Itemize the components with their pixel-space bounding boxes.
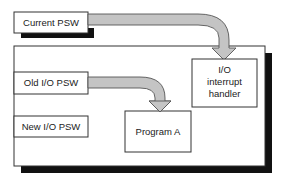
old-io-psw-node: Old I/O PSW — [14, 72, 88, 94]
program-a-label: Program A — [136, 126, 182, 137]
io-interrupt-diagram: Current PSW Old I/O PSW New I/O PSW I/O … — [0, 0, 289, 183]
io-handler-label-line-2: interrupt — [207, 76, 242, 87]
new-io-psw-node: New I/O PSW — [14, 116, 88, 137]
current-psw-label: Current PSW — [23, 17, 79, 28]
old-io-psw-label: Old I/O PSW — [24, 77, 78, 88]
new-io-psw-label: New I/O PSW — [22, 121, 81, 132]
io-handler-label-line-1: I/O — [218, 64, 231, 75]
program-a-node: Program A — [125, 111, 191, 152]
io-handler-label-line-3: handler — [209, 88, 241, 99]
current-psw-node: Current PSW — [14, 12, 94, 38]
io-handler-node: I/O interrupt handler — [192, 59, 257, 107]
